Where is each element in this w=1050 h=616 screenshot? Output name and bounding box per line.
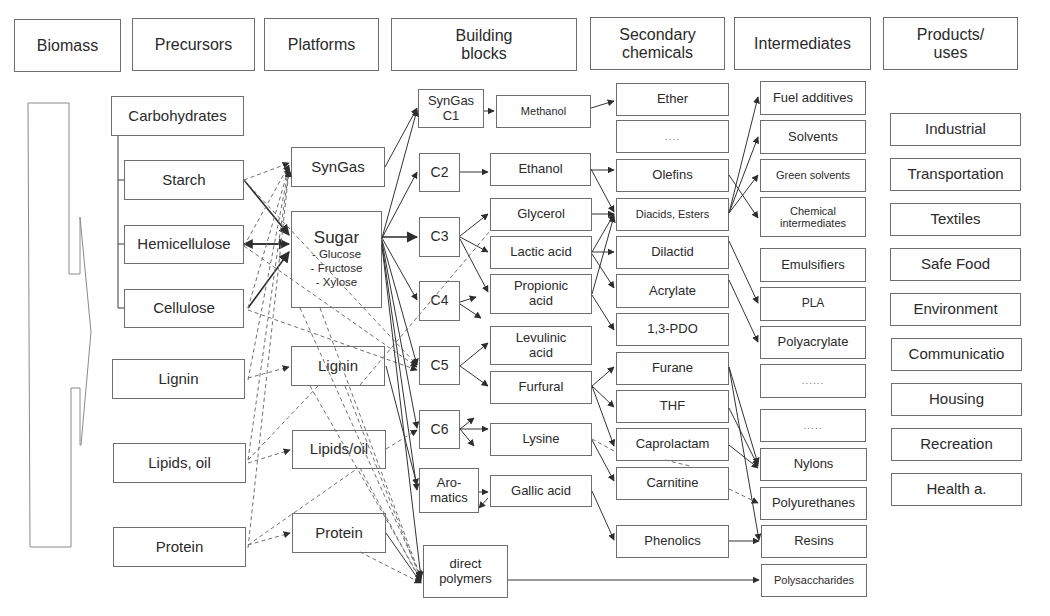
intermediate-chemical-intermediates: Chemical intermediates xyxy=(760,197,866,237)
intermediate-green-solvents: Green solvents xyxy=(760,159,866,192)
chem-lysine: Lysine xyxy=(490,423,592,456)
platform-syngas: SynGas xyxy=(291,147,385,187)
intermediate-ellipsis-2: ..... xyxy=(760,409,866,442)
use-textiles: Textiles xyxy=(890,203,1021,236)
intermediate-fuel-additives: Fuel additives xyxy=(760,81,866,115)
header-secondary-chemicals: Secondary chemicals xyxy=(590,17,725,70)
platform-lipids-oil: Lipids/oil xyxy=(292,430,386,469)
chem-levulinic-acid: Levulinic acid xyxy=(490,326,592,365)
secondary-dilactid: Dilactid xyxy=(616,236,729,269)
platform-lignin: Lignin xyxy=(291,346,385,386)
intermediate-emulsifiers: Emulsifiers xyxy=(760,248,866,282)
header-intermediates: Intermediates xyxy=(734,17,871,70)
secondary-acrylate: Acrylate xyxy=(616,274,729,308)
secondary-thf: THF xyxy=(616,390,729,423)
chem-furfural: Furfural xyxy=(490,371,592,404)
chem-lactic-acid: Lactic acid xyxy=(490,236,592,269)
biomass-arrow-shape xyxy=(0,0,130,616)
chem-glycerol: Glycerol xyxy=(490,198,592,231)
precursor-protein: Protein xyxy=(113,527,246,567)
precursor-lipids-oil: Lipids, oil xyxy=(113,443,246,483)
secondary-1-3-pdo: 1,3-PDO xyxy=(616,313,729,346)
secondary-carnitine: Carnitine xyxy=(616,467,729,500)
intermediate-nylons: Nylons xyxy=(760,448,867,481)
chem-ethanol: Ethanol xyxy=(490,153,591,186)
chem-propionic-acid: Propionic acid xyxy=(490,274,592,314)
precursor-carbohydrates: Carbohydrates xyxy=(111,96,244,136)
secondary-furane: Furane xyxy=(616,352,729,385)
secondary-phenolics: Phenolics xyxy=(616,525,729,558)
precursor-cellulose: Cellulose xyxy=(124,289,244,328)
header-products-uses: Products/ uses xyxy=(883,17,1018,70)
header-biomass: Biomass xyxy=(14,19,121,72)
use-recreation: Recreation xyxy=(891,428,1022,461)
use-transportation: Transportation xyxy=(890,158,1021,191)
platform-sugar-fructose: - Fructose xyxy=(311,262,363,276)
block-direct-polymers: direct polymers xyxy=(423,545,508,598)
platform-sugar-title: Sugar xyxy=(314,229,359,248)
header-platforms: Platforms xyxy=(264,18,379,71)
block-syngas-c1: SynGas C1 xyxy=(418,89,484,128)
intermediate-ellipsis-1: ...... xyxy=(760,364,866,398)
intermediate-solvents: Solvents xyxy=(760,120,866,154)
intermediate-pla: PLA xyxy=(760,287,866,321)
chem-gallic-acid: Gallic acid xyxy=(490,475,592,507)
block-c3: C3 xyxy=(419,217,460,257)
precursor-starch: Starch xyxy=(124,160,244,200)
secondary-diacids-esters: Diacids, Esters xyxy=(616,198,729,231)
block-c5: C5 xyxy=(419,346,460,385)
secondary-caprolactam: Caprolactam xyxy=(616,428,729,461)
use-housing: Housing xyxy=(891,383,1022,416)
intermediate-polyacrylate: Polyacrylate xyxy=(760,326,866,359)
use-industrial: Industrial xyxy=(890,113,1021,146)
intermediate-polysaccharides: Polysaccharides xyxy=(761,564,867,597)
chem-methanol: Methanol xyxy=(496,95,591,128)
header-precursors: Precursors xyxy=(132,18,255,71)
block-c6: C6 xyxy=(419,410,460,449)
block-aromatics: Aro- matics xyxy=(419,468,479,513)
block-c2: C2 xyxy=(419,153,460,192)
use-environment: Environment xyxy=(890,293,1021,326)
platform-sugar-glucose: - Glucose xyxy=(312,248,361,262)
header-building-blocks: Building blocks xyxy=(391,18,577,71)
platform-sugar-xylose: - Xylose xyxy=(316,276,358,290)
intermediate-resins: Resins xyxy=(761,525,867,558)
biorefinery-flow-diagram: Biomass Precursors Platforms Building bl… xyxy=(0,0,1050,616)
platform-sugar: Sugar - Glucose - Fructose - Xylose xyxy=(291,211,382,308)
block-c4: C4 xyxy=(419,281,460,321)
secondary-ether: Ether xyxy=(616,83,729,116)
secondary-olefins: Olefins xyxy=(616,159,729,192)
use-health: Health a. xyxy=(891,473,1022,506)
intermediate-polyurethanes: Polyurethanes xyxy=(760,487,867,520)
use-communication: Communicatio xyxy=(891,338,1022,371)
precursor-hemicellulose: Hemicellulose xyxy=(124,225,244,264)
precursor-lignin: Lignin xyxy=(112,359,245,399)
use-safe-food: Safe Food xyxy=(890,248,1021,281)
secondary-ellipsis: .... xyxy=(616,120,729,153)
platform-protein: Protein xyxy=(292,513,386,553)
